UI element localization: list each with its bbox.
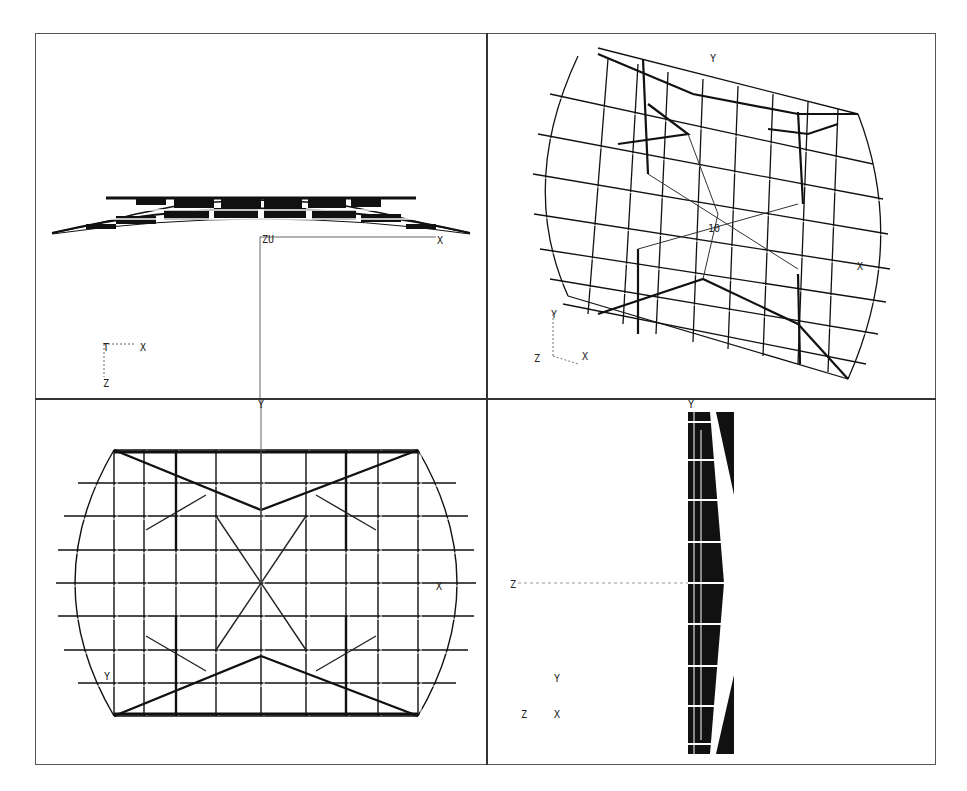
horizontal-divider[interactable] [35, 398, 936, 400]
viewport-top-view[interactable]: Y X Y [36, 400, 486, 764]
top-view-wireframe [36, 400, 486, 764]
front-triad-down-label: Z [103, 379, 109, 389]
side-y-axis-label: Y [688, 400, 694, 410]
top-marker-label: Y [104, 672, 110, 682]
side-triad-up-label: Y [554, 674, 560, 684]
side-triad-right-label: X [554, 710, 560, 720]
iso-y-axis-label: Y [710, 54, 716, 64]
iso-triad-left-label: Z [534, 354, 540, 364]
iso-triad-right-label: X [582, 352, 588, 362]
iso-origin-label: 10 [708, 224, 720, 234]
front-triad-up-label: T [103, 343, 109, 353]
viewport-front-view[interactable]: ZU X T X Z [36, 34, 486, 398]
iso-triad-up-label: Y [551, 310, 557, 320]
top-y-axis-label: Y [258, 400, 264, 410]
front-x-axis-label: X [437, 236, 443, 246]
side-triad-left-label: Z [521, 710, 527, 720]
front-triad-right-label: X [140, 343, 146, 353]
viewport-isometric-view[interactable]: Y 10 X Y Z X [488, 34, 936, 398]
side-z-axis-label: Z [510, 580, 516, 590]
top-x-axis-label: X [436, 582, 442, 592]
viewport-side-view[interactable]: Y Z Y Z X [488, 400, 936, 764]
front-origin-label: ZU [262, 235, 274, 245]
iso-x-axis-label: X [857, 262, 863, 272]
isometric-view-wireframe [488, 34, 936, 398]
